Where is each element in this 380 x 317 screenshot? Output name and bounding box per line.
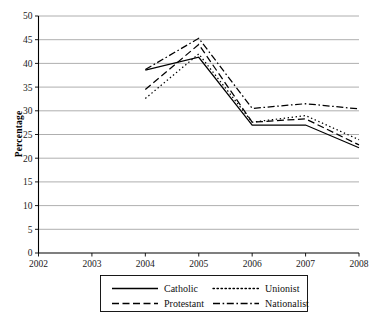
x-tick-label: 2007 [296,259,315,269]
legend-label-protestant: Protestant [164,298,204,309]
y-tick-label: 5 [28,225,33,235]
x-tick-label: 2002 [29,259,48,269]
y-tick-label: 10 [23,201,33,211]
legend-label-nationalist: Nationalist [265,298,309,309]
x-tick-label: 2008 [350,259,369,269]
y-tick-label: 30 [23,106,33,116]
y-tick-label: 20 [23,154,33,164]
x-tick-label: 2003 [82,259,101,269]
y-tick-label: 50 [23,11,33,21]
line-chart-figure: 05101520253035404550 2002200320042005200… [0,0,380,317]
legend-label-unionist: Unionist [265,283,300,294]
y-tick-label: 45 [23,35,33,45]
x-tick-label: 2004 [136,259,155,269]
y-tick-label: 35 [23,83,33,93]
chart-canvas: 05101520253035404550 2002200320042005200… [0,0,380,317]
legend-label-catholic: Catholic [164,283,198,294]
y-tick-label: 15 [23,177,33,187]
y-axis-title: Percentage [14,111,24,158]
y-tick-label: 25 [23,130,33,140]
y-tick-label: 0 [28,248,33,258]
x-tick-label: 2005 [189,259,208,269]
x-tick-label: 2006 [243,259,262,269]
y-tick-label: 40 [23,59,33,69]
